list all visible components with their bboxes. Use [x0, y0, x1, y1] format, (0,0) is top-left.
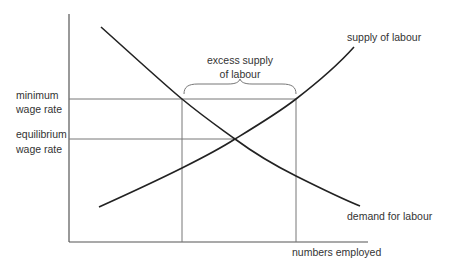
equilibrium-wage-label-line2: wage rate	[16, 142, 62, 156]
equilibrium-wage-label-line1: equilibrium	[16, 127, 67, 141]
supply-curve-label: supply of labour	[347, 30, 421, 44]
excess-supply-label-line2: of labour	[190, 67, 290, 81]
excess-supply-label-line1: excess supply	[190, 53, 290, 67]
minimum-wage-label-line2: wage rate	[16, 102, 62, 116]
demand-curve-label: demand for labour	[347, 209, 432, 223]
excess-supply-brace	[184, 79, 296, 94]
minimum-wage-label-line1: minimum	[16, 88, 59, 102]
x-axis-label: numbers employed	[292, 245, 381, 259]
